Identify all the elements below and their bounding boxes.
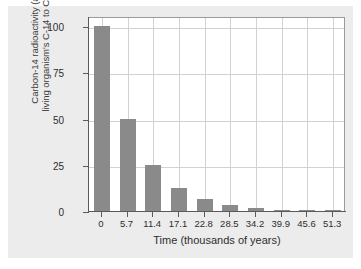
x-axis-tick-label: 22.8 [194,218,213,229]
x-axis-tick-label: 45.6 [297,218,316,229]
bar [145,165,161,211]
vertical-gridline [282,18,283,211]
vertical-gridline [333,18,334,211]
plot-area [88,17,345,212]
x-axis-tick [306,212,307,217]
y-axis-title-line-1: Carbon-14 radioactivity (as % of [29,0,40,104]
y-axis-tick [83,120,88,121]
y-axis-tick-label: 0 [58,207,64,218]
y-axis-title-line-2: living organism's C-14 to C-12 ratio) [40,0,51,112]
y-axis-tick [83,27,88,28]
x-axis-tick-label: 34.2 [246,218,265,229]
x-axis-tick [332,212,333,217]
y-axis-tick [83,166,88,167]
vertical-gridline [205,18,206,211]
x-axis-tick-label: 17.1 [169,218,188,229]
x-axis-tick [255,212,256,217]
x-axis-tick [127,212,128,217]
x-axis-tick-label: 28.5 [220,218,239,229]
x-axis-title: Time (thousands of years) [88,234,346,246]
x-axis-tick [178,212,179,217]
x-axis-tick-label: 11.4 [143,218,161,229]
vertical-gridline [256,18,257,211]
bar [171,188,187,211]
x-axis-tick-label: 39.9 [272,218,291,229]
x-axis-tick [152,212,153,217]
x-axis-tick-label: 51.3 [323,218,342,229]
y-axis-tick [83,73,88,74]
y-axis-tick-label: 75 [53,68,64,79]
x-axis-tick [101,212,102,217]
x-axis-tick [281,212,282,217]
vertical-gridline [307,18,308,211]
bar [197,199,213,211]
vertical-gridline [230,18,231,211]
y-axis-line [88,17,89,213]
x-axis-tick-label: 5.7 [120,218,133,229]
y-axis-tick-label: 100 [47,22,64,33]
data-region [89,28,344,211]
y-axis-tick [83,212,88,213]
y-axis-tick-label: 25 [53,160,64,171]
x-axis-tick [204,212,205,217]
x-axis-tick-label: 0 [98,218,103,229]
chart-figure: Carbon-14 radioactivity (as % of living … [8,6,353,258]
y-axis-tick-label: 50 [53,114,64,125]
bar [120,119,136,212]
vertical-gridline [179,18,180,211]
x-axis-tick [229,212,230,217]
bar [94,26,110,211]
